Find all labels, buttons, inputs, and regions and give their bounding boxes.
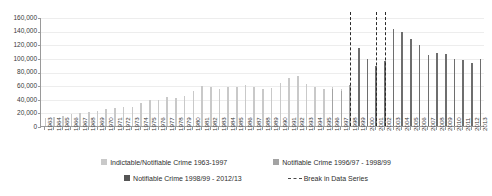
legend-label: Break in Data Series bbox=[304, 175, 368, 182]
y-axis-label: 140,000 bbox=[14, 28, 38, 35]
legend-row-1: Indictable/Notifiable Crime 1963-1997 No… bbox=[0, 154, 492, 170]
legend-item-3[interactable]: Break in Data Series bbox=[288, 175, 368, 182]
x-tick-mark bbox=[349, 127, 350, 130]
x-axis-label: 2013 bbox=[482, 117, 488, 131]
legend-label: Notifiable Crime 1996/97 - 1998/99 bbox=[282, 159, 391, 166]
y-axis-label: 120,000 bbox=[14, 42, 38, 49]
bars-layer bbox=[41, 18, 484, 126]
x-tick-mark bbox=[53, 127, 54, 130]
legend-item-2[interactable]: Notifiable Crime 1998/99 - 2012/13 bbox=[124, 175, 242, 182]
x-tick-mark bbox=[114, 127, 115, 130]
y-axis-label: 40,000 bbox=[17, 97, 37, 104]
y-axis-label: 80,000 bbox=[17, 69, 37, 76]
plot-area bbox=[40, 18, 484, 127]
y-axis-label: 0 bbox=[33, 124, 37, 131]
bar bbox=[436, 53, 438, 126]
bar bbox=[419, 45, 421, 126]
bar bbox=[393, 29, 395, 126]
legend-item-1[interactable]: Notifiable Crime 1996/97 - 1998/99 bbox=[273, 159, 391, 166]
legend-dashed-line-icon bbox=[288, 178, 302, 179]
y-axis: 160,000140,000120,000100,00080,00060,000… bbox=[0, 18, 37, 127]
bar bbox=[367, 59, 369, 126]
break-in-data-series-line bbox=[376, 12, 377, 126]
x-tick-mark bbox=[201, 127, 202, 130]
break-in-data-series-line bbox=[385, 12, 386, 126]
legend-label: Indictable/Notifiable Crime 1963-1997 bbox=[110, 159, 227, 166]
bar bbox=[428, 55, 430, 126]
y-axis-label: 20,000 bbox=[17, 110, 37, 117]
y-axis-label: 160,000 bbox=[14, 15, 38, 22]
bar-chart: 160,000140,000120,000100,00080,00060,000… bbox=[0, 0, 492, 196]
legend-label: Notifiable Crime 1998/99 - 2012/13 bbox=[133, 175, 242, 182]
chart-legend: Indictable/Notifiable Crime 1963-1997 No… bbox=[0, 154, 492, 196]
y-axis-label: 100,000 bbox=[14, 56, 38, 63]
legend-swatch-icon bbox=[273, 159, 279, 165]
legend-swatch-icon bbox=[101, 159, 107, 165]
x-tick-mark bbox=[262, 127, 263, 130]
bar bbox=[401, 32, 403, 126]
bar bbox=[480, 59, 482, 126]
x-tick-mark bbox=[471, 127, 472, 130]
bar bbox=[462, 60, 464, 126]
bar bbox=[358, 48, 360, 126]
bar bbox=[410, 39, 412, 126]
y-axis-label: 60,000 bbox=[17, 83, 37, 90]
x-tick-mark bbox=[410, 127, 411, 130]
legend-item-0[interactable]: Indictable/Notifiable Crime 1963-1997 bbox=[101, 159, 227, 166]
x-tick-mark bbox=[436, 127, 437, 130]
break-in-data-series-line bbox=[350, 12, 351, 126]
x-tick-mark bbox=[323, 127, 324, 130]
x-axis: 1963196419651966196719681969197019711972… bbox=[40, 127, 484, 157]
x-tick-mark bbox=[288, 127, 289, 130]
x-tick-mark bbox=[140, 127, 141, 130]
legend-row-2: Notifiable Crime 1998/99 - 2012/13 Break… bbox=[0, 170, 492, 186]
x-tick-mark bbox=[175, 127, 176, 130]
bar bbox=[445, 54, 447, 126]
legend-swatch-icon bbox=[124, 175, 130, 181]
bar bbox=[454, 59, 456, 126]
